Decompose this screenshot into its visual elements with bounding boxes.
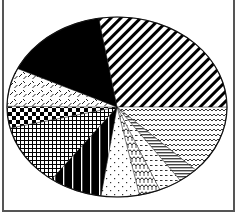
pie-slices [7, 17, 227, 197]
pie-slice-diagonal-stripes [99, 17, 227, 107]
pie-chart [0, 0, 241, 215]
